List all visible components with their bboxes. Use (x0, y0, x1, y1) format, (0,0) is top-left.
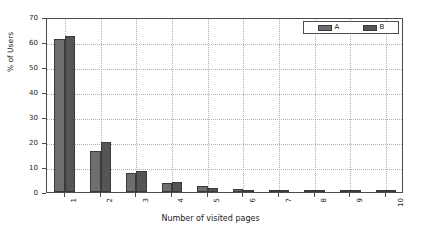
x-tick-label: 1 (72, 198, 79, 202)
x-tick-mark (385, 193, 386, 197)
y-tick-label: 60 (12, 40, 38, 47)
y-tick-label: 0 (12, 190, 38, 197)
x-tick-mark (100, 193, 101, 197)
y-tick-mark (42, 93, 46, 94)
bar-A-4 (162, 183, 172, 192)
x-tick-label: 7 (286, 198, 293, 202)
x-tick-label: 10 (398, 198, 405, 207)
y-tick-mark (42, 68, 46, 69)
bar-B-7 (279, 190, 289, 192)
y-tick-label: 70 (12, 15, 38, 22)
y-tick-mark (42, 143, 46, 144)
bar-A-7 (269, 190, 279, 193)
bar-B-1 (65, 36, 75, 192)
x-tick-label: 3 (143, 198, 150, 202)
y-tick-mark (42, 193, 46, 194)
x-tick-label: 9 (357, 198, 364, 202)
y-tick-label: 30 (12, 115, 38, 122)
y-tick-label: 20 (12, 140, 38, 147)
y-tick-mark (42, 168, 46, 169)
y-tick-mark (42, 118, 46, 119)
bar-A-10 (376, 190, 386, 192)
legend-swatch-B (363, 25, 377, 31)
bar-A-2 (90, 151, 100, 192)
plot-area (46, 18, 403, 193)
x-axis-title: Number of visited pages (0, 214, 421, 223)
x-tick-mark (314, 193, 315, 197)
legend-swatch-A (318, 25, 332, 31)
y-tick-label: 10 (12, 165, 38, 172)
x-tick-label: 5 (215, 198, 222, 202)
x-tick-mark (207, 193, 208, 197)
legend-entry-B: B (363, 24, 385, 31)
x-tick-mark (64, 193, 65, 197)
y-tick-mark (42, 43, 46, 44)
bar-B-6 (243, 190, 253, 192)
y-tick-label: 50 (12, 65, 38, 72)
x-tick-mark (171, 193, 172, 197)
bar-A-3 (126, 173, 136, 192)
x-tick-mark (278, 193, 279, 197)
bar-A-9 (340, 190, 350, 192)
bar-B-2 (101, 142, 111, 192)
bar-B-4 (172, 182, 182, 192)
legend: AB (303, 21, 399, 34)
x-tick-mark (135, 193, 136, 197)
bar-B-9 (350, 190, 360, 192)
x-tick-label: 4 (179, 198, 186, 202)
legend-label-A: A (335, 24, 340, 31)
x-tick-label: 2 (108, 198, 115, 202)
x-tick-mark (242, 193, 243, 197)
x-tick-mark (349, 193, 350, 197)
x-tick-label: 6 (250, 198, 257, 202)
bar-A-8 (304, 190, 314, 192)
bar-B-5 (208, 188, 218, 193)
bar-chart-figure: % of Users 010203040506070 12345678910 N… (0, 0, 421, 230)
bar-A-5 (197, 186, 207, 192)
y-tick-label: 40 (12, 90, 38, 97)
bar-A-1 (54, 39, 64, 192)
bar-A-6 (233, 189, 243, 193)
x-tick-label: 8 (322, 198, 329, 202)
legend-label-B: B (380, 24, 385, 31)
bar-B-10 (386, 190, 396, 192)
legend-entry-A: A (318, 24, 340, 31)
bar-B-8 (315, 190, 325, 192)
bar-B-3 (136, 171, 146, 192)
y-tick-mark (42, 18, 46, 19)
bars-layer (47, 19, 402, 192)
